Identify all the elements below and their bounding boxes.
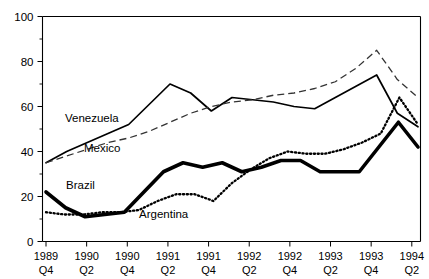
series-label-venezuela: Venezuela (65, 112, 119, 124)
x-tick-year-1: 1990 (74, 250, 98, 262)
y-tick-label-0: 0 (27, 236, 33, 248)
y-tick-label-80: 80 (21, 56, 34, 68)
x-tick-year-3: 1991 (156, 250, 180, 262)
x-tick-year-8: 1993 (359, 250, 383, 262)
x-tick-quarter-3: Q2 (161, 264, 176, 276)
x-tick-quarter-5: Q2 (242, 264, 257, 276)
x-tick-year-6: 1992 (278, 250, 302, 262)
x-axis-ticks (46, 242, 412, 247)
y-tick-label-20: 20 (21, 191, 34, 203)
x-tick-year-7: 1993 (318, 250, 342, 262)
y-axis-labels: 020406080100 (14, 11, 33, 248)
plot-frame (43, 17, 421, 242)
line-chart: 020406080100 1989Q41990Q21990Q41991Q2199… (0, 0, 429, 279)
x-tick-quarter-2: Q4 (120, 264, 135, 276)
x-tick-year-9: 1994 (400, 250, 424, 262)
y-tick-label-100: 100 (14, 11, 33, 23)
series-label-brazil: Brazil (66, 179, 95, 191)
x-tick-year-0: 1989 (34, 250, 58, 262)
x-tick-year-5: 1992 (237, 250, 261, 262)
x-tick-quarter-9: Q2 (404, 264, 419, 276)
x-tick-year-4: 1991 (196, 250, 220, 262)
y-tick-label-60: 60 (21, 101, 34, 113)
series-label-mexico: Mexico (84, 142, 120, 154)
x-tick-quarter-8: Q4 (364, 264, 379, 276)
x-tick-quarter-0: Q4 (39, 264, 54, 276)
x-tick-quarter-4: Q4 (201, 264, 216, 276)
series-label-argentina: Argentina (139, 208, 189, 220)
x-tick-quarter-1: Q2 (79, 264, 94, 276)
x-tick-year-2: 1990 (115, 250, 139, 262)
series-inline-labels: VenezuelaMexicoBrazilArgentina (65, 112, 189, 220)
chart-container: 020406080100 1989Q41990Q21990Q41991Q2199… (0, 0, 429, 279)
x-tick-quarter-6: Q4 (283, 264, 298, 276)
x-tick-quarter-7: Q2 (323, 264, 338, 276)
series-lines (46, 50, 418, 217)
y-tick-label-40: 40 (21, 146, 34, 158)
x-axis-labels: 1989Q41990Q21990Q41991Q21991Q41992Q21992… (34, 250, 424, 276)
